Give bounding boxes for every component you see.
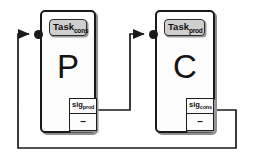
component-producer[interactable]: P Taskcons sigprod –	[40, 10, 96, 133]
signal-port-sig-prod[interactable]: sigprod –	[69, 98, 97, 131]
task-port-cons-label: Taskcons	[53, 21, 88, 37]
signal-port-sig-prod-header: sigprod	[70, 99, 96, 114]
component-consumer[interactable]: C Taskprod sigcons –	[155, 10, 215, 133]
signal-port-sig-cons-header: sigcons	[187, 99, 213, 114]
task-port-prod-name: Task	[168, 21, 189, 32]
signal-port-sig-cons-body: –	[187, 114, 213, 130]
signal-port-sig-cons-name: sig	[189, 100, 200, 109]
signal-port-sig-prod-label: sigprod	[72, 100, 94, 112]
task-port-prod-label: Taskprod	[168, 21, 203, 37]
task-port-cons[interactable]: Taskcons	[49, 19, 87, 36]
connection-dot-producer-task-cons[interactable]	[34, 30, 43, 39]
signal-port-sig-prod-body: –	[70, 114, 96, 130]
signal-port-sig-prod-name: sig	[72, 100, 83, 109]
signal-port-sig-cons-subscript: cons	[200, 104, 212, 110]
signal-port-sig-cons[interactable]: sigcons –	[186, 98, 214, 131]
signal-port-sig-prod-value: –	[70, 118, 96, 126]
task-port-cons-subscript: cons	[74, 27, 88, 34]
connection-dot-consumer-task-prod[interactable]	[149, 30, 158, 39]
task-port-cons-name: Task	[53, 21, 74, 32]
task-port-prod[interactable]: Taskprod	[164, 19, 205, 36]
component-diagram: P Taskcons sigprod – C Taskprod	[0, 0, 253, 159]
signal-port-sig-cons-value: –	[187, 118, 213, 126]
connection-sig-prod-to-task-prod	[96, 34, 144, 110]
signal-port-sig-cons-label: sigcons	[189, 100, 212, 112]
connection-lines-layer	[0, 0, 253, 159]
signal-port-sig-prod-subscript: prod	[83, 104, 94, 110]
task-port-prod-subscript: prod	[189, 27, 203, 34]
component-producer-letter: P	[42, 50, 94, 83]
component-consumer-letter: C	[157, 50, 213, 83]
